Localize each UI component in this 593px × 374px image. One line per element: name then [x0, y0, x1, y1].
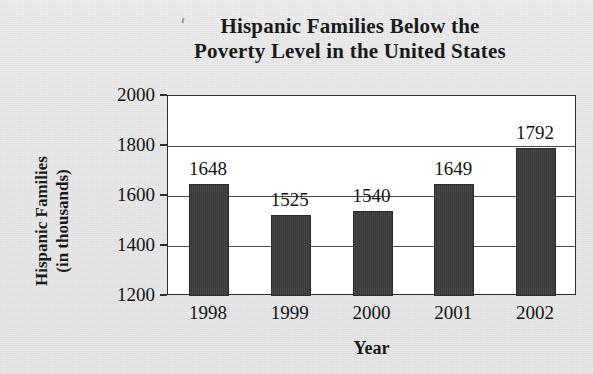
x-axis-title: Year — [167, 338, 576, 359]
x-tick-label: 2002 — [490, 303, 580, 323]
y-tick-mark — [160, 144, 167, 146]
x-tick-label: 2001 — [408, 303, 498, 323]
x-tick-label: 1999 — [245, 303, 335, 323]
y-tick-mark — [160, 94, 167, 96]
y-tick-label: 1200 — [75, 285, 155, 304]
x-tick-label: 1998 — [163, 303, 253, 323]
y-tick-mark — [160, 244, 167, 246]
y-tick-label: 1600 — [75, 185, 155, 204]
bar-value-label: 1525 — [245, 190, 335, 209]
chart-figure: Hispanic Families Below the Poverty Leve… — [0, 0, 593, 374]
bar-value-label: 1792 — [490, 123, 580, 142]
bar — [271, 215, 311, 296]
bar-value-label: 1648 — [163, 159, 253, 178]
y-tick-label: 1400 — [75, 235, 155, 254]
bar — [189, 184, 229, 296]
y-axis-title-line-1: Hispanic Families — [31, 106, 52, 336]
bar-value-label: 1540 — [327, 186, 417, 205]
chart-title-line-2: Poverty Level in the United States — [120, 39, 580, 64]
y-tick-mark — [160, 294, 167, 296]
chart-title: Hispanic Families Below the Poverty Leve… — [120, 14, 580, 64]
y-tick-mark — [160, 194, 167, 196]
bar — [434, 184, 474, 296]
bar — [353, 211, 393, 296]
chart-title-line-1: Hispanic Families Below the — [120, 14, 580, 39]
x-tick-label: 2000 — [327, 303, 417, 323]
y-tick-label: 2000 — [75, 85, 155, 104]
y-axis-title: Hispanic Families (in thousands) — [31, 106, 73, 336]
y-axis-title-line-2: (in thousands) — [52, 106, 73, 336]
y-tick-label: 1800 — [75, 135, 155, 154]
bar-value-label: 1649 — [408, 159, 498, 178]
gridline — [168, 146, 575, 147]
bar — [516, 148, 556, 296]
